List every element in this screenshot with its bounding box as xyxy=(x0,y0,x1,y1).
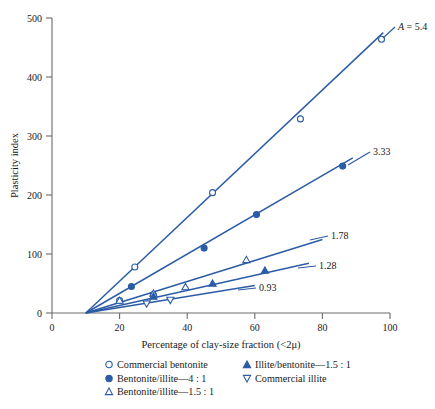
triangle-down-marker xyxy=(167,297,174,303)
y-axis-ticks xyxy=(46,18,52,313)
legend-label: Illite/bentonite—1.5 : 1 xyxy=(255,358,351,372)
legend-item[interactable]: Commercial illite xyxy=(242,372,367,386)
legend-label: Commercial illite xyxy=(255,372,327,386)
series-line xyxy=(86,158,353,313)
filled-circle-icon xyxy=(104,373,117,384)
circle-marker xyxy=(201,245,207,251)
y-tick-label-400: 400 xyxy=(27,72,42,83)
legend-label: Bentonite/illite—1.5 : 1 xyxy=(117,385,214,399)
legend: Commercial bentonite Bentonite/illite—4 … xyxy=(104,358,369,399)
legend-column-right: Illite/bentonite—1.5 : 1 Commercial illi… xyxy=(242,358,367,385)
x-tick-label-60: 60 xyxy=(250,322,260,333)
leader-128 xyxy=(298,266,316,268)
y-axis-tick-labels: 0 100 200 300 400 500 xyxy=(27,13,42,319)
circle-marker xyxy=(132,264,138,270)
triangle-up-marker xyxy=(261,267,268,273)
circle-marker xyxy=(210,190,216,196)
x-tick-label-40: 40 xyxy=(182,322,192,333)
y-tick-label-200: 200 xyxy=(27,190,42,201)
slope-label-178: 1.78 xyxy=(331,230,349,241)
series-line xyxy=(86,33,383,313)
figure-container: 0 100 200 300 400 500 0 20 40 60 80 100 … xyxy=(0,0,435,409)
legend-item[interactable]: Illite/bentonite—1.5 : 1 xyxy=(242,358,367,372)
y-axis-title: Plasticity index xyxy=(9,132,20,198)
triangle-up-marker xyxy=(182,283,189,289)
circle-marker xyxy=(128,283,134,289)
slope-label-093: 0.93 xyxy=(259,282,277,293)
triangle-up-marker xyxy=(243,256,250,262)
triangle-up-marker xyxy=(209,280,216,286)
legend-item[interactable]: Bentonite/illite—1.5 : 1 xyxy=(104,385,242,399)
slope-label-333: 3.33 xyxy=(373,146,391,157)
data-series-layer xyxy=(86,33,385,313)
slope-annotation-layer: A = 5.4 3.33 1.78 1.28 0.93 xyxy=(238,21,427,293)
y-tick-label-100: 100 xyxy=(27,249,42,260)
open-circle-icon xyxy=(104,359,117,370)
y-tick-label-0: 0 xyxy=(37,308,42,319)
legend-item[interactable]: Commercial bentonite xyxy=(104,358,242,372)
x-tick-label-20: 20 xyxy=(115,322,125,333)
slope-label-a-value: = 5.4 xyxy=(404,21,427,32)
circle-marker xyxy=(340,163,346,169)
data-series xyxy=(86,33,385,313)
y-tick-label-500: 500 xyxy=(27,13,42,24)
leader-178 xyxy=(310,236,328,240)
y-tick-label-300: 300 xyxy=(27,131,42,142)
plot-area: 0 100 200 300 400 500 0 20 40 60 80 100 … xyxy=(0,0,435,360)
x-tick-label-0: 0 xyxy=(50,322,55,333)
legend-label: Commercial bentonite xyxy=(117,358,208,372)
filled-triangle-up-icon xyxy=(242,359,255,370)
x-axis-title: Percentage of clay-size fraction (<2μ) xyxy=(141,339,301,351)
x-tick-label-80: 80 xyxy=(317,322,327,333)
legend-label: Bentonite/illite—4 : 1 xyxy=(117,372,206,386)
open-triangle-down-icon xyxy=(242,373,255,384)
legend-column-left: Commercial bentonite Bentonite/illite—4 … xyxy=(104,358,242,399)
circle-marker xyxy=(253,211,259,217)
leader-a xyxy=(383,27,395,38)
legend-item[interactable]: Bentonite/illite—4 : 1 xyxy=(104,372,242,386)
x-tick-label-100: 100 xyxy=(383,322,398,333)
slope-label-128: 1.28 xyxy=(319,260,337,271)
open-triangle-up-icon xyxy=(104,386,117,397)
slope-label-a: A = 5.4 xyxy=(397,21,427,32)
x-axis-tick-labels: 0 20 40 60 80 100 xyxy=(50,322,398,333)
data-series xyxy=(86,158,353,313)
circle-marker xyxy=(297,116,303,122)
x-axis-ticks xyxy=(52,313,390,319)
